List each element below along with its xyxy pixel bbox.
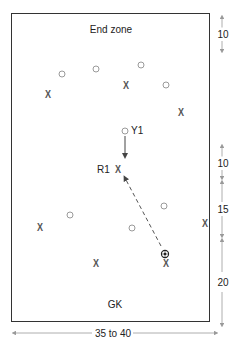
defender-x-marker: X <box>163 259 169 269</box>
depth-label-15: 15 <box>217 203 228 216</box>
defender-x-marker: X <box>37 223 43 233</box>
player-y1-label: Y1 <box>131 125 143 136</box>
defender-x-marker: X <box>123 81 129 91</box>
attacker-o-marker <box>161 203 168 210</box>
attacker-o-marker <box>67 212 74 219</box>
defender-x-marker: X <box>93 259 99 269</box>
attacker-o-marker <box>93 66 100 73</box>
width-dimension-label: 35 to 40 <box>95 327 131 340</box>
defender-x-marker: X <box>202 219 208 229</box>
depth-label-20: 20 <box>217 276 228 289</box>
depth-label-10: 10 <box>217 157 228 170</box>
attacker-o-marker <box>129 225 136 232</box>
end-zone-label: End zone <box>90 24 132 35</box>
goalkeeper-label: GK <box>108 299 122 310</box>
playing-field <box>11 13 210 322</box>
attacker-o-marker <box>163 82 170 89</box>
end-zone-depth-label: 10 <box>217 28 228 41</box>
player-r1-marker: X <box>115 165 121 175</box>
defender-x-marker: X <box>178 108 184 118</box>
attacker-o-marker <box>59 71 66 78</box>
attacker-o-marker <box>138 62 145 69</box>
defender-x-marker: X <box>45 90 51 100</box>
player-r1-label: R1 <box>97 164 110 175</box>
player-y1-marker <box>122 128 129 135</box>
